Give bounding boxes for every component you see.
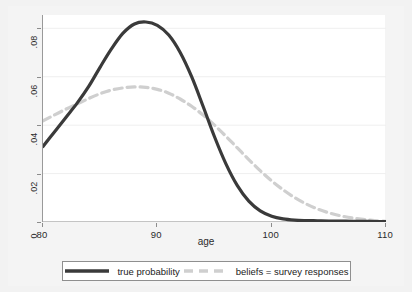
series-line-beliefs-survey-responses xyxy=(43,87,386,221)
legend-item-true-probability: true probability xyxy=(64,266,179,277)
x-tick-mark-2 xyxy=(271,223,272,227)
y-tick-label-4: .08 xyxy=(29,27,39,57)
legend-line-solid-icon xyxy=(64,267,110,275)
chart-legend: true probability beliefs = survey respon… xyxy=(62,261,351,281)
legend-label-beliefs: beliefs = survey responses xyxy=(236,266,349,277)
x-tick-mark-1 xyxy=(156,223,157,227)
y-tick-label-2: .04 xyxy=(29,124,39,154)
chart-figure: 0.02.04.06.08 8090100110 age true probab… xyxy=(0,0,412,292)
x-tick-mark-0 xyxy=(42,223,43,227)
y-tick-label-3: .06 xyxy=(29,76,39,106)
legend-line-dashed-icon xyxy=(183,267,229,275)
y-tick-label-1: .02 xyxy=(29,173,39,203)
plot-area xyxy=(42,15,385,222)
legend-item-beliefs: beliefs = survey responses xyxy=(183,266,349,277)
plot-svg xyxy=(43,15,386,222)
legend-label-true-probability: true probability xyxy=(117,266,179,277)
x-axis-title: age xyxy=(0,236,412,247)
series-line-true-probability xyxy=(43,22,386,222)
series-lines xyxy=(43,22,386,222)
x-tick-mark-3 xyxy=(385,223,386,227)
